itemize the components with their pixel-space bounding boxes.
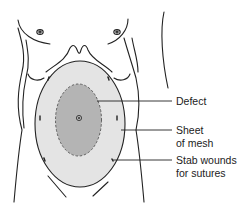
right-nipple-inner xyxy=(116,31,118,33)
label-stab-line2: for sutures xyxy=(176,167,226,179)
label-stab-line1: Stab wounds xyxy=(176,154,237,166)
label-mesh-line1: Sheet xyxy=(176,124,203,136)
label-defect: Defect xyxy=(176,95,206,107)
left-costal-curve xyxy=(28,74,44,80)
left-nipple-inner xyxy=(39,31,41,33)
abdomen-diagram xyxy=(0,0,252,215)
label-mesh-line2: of mesh xyxy=(176,137,213,149)
right-inguinal-line xyxy=(93,182,108,196)
left-pectoral-line xyxy=(18,20,50,44)
right-nipple xyxy=(114,30,120,35)
right-costal-curve xyxy=(114,74,130,80)
right-flank-outer xyxy=(124,38,144,202)
left-nipple xyxy=(37,30,43,35)
defect-area xyxy=(56,84,102,156)
back-contour xyxy=(162,12,168,88)
left-flank-outer xyxy=(14,28,24,202)
